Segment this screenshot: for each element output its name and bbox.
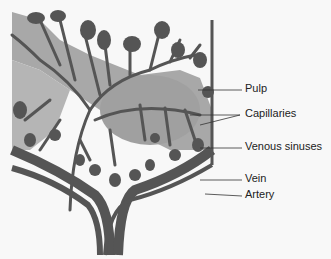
label-vein: Vein [245, 172, 266, 184]
pulp-region [12, 12, 212, 150]
label-pulp: Pulp [245, 82, 267, 94]
label-venous-sinuses: Venous sinuses [245, 140, 322, 152]
label-capillaries: Capillaries [245, 107, 296, 119]
label-artery: Artery [245, 188, 274, 200]
spleen-diagram [0, 0, 331, 259]
